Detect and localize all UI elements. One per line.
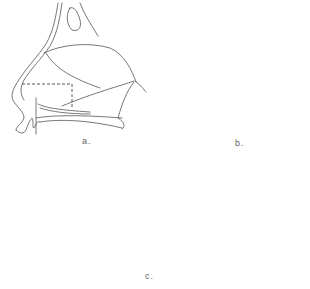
- nasal-anatomy-figure: [0, 0, 310, 289]
- panel-a-tip: [16, 118, 40, 133]
- panel-a-upper-lateral-cartilage: [44, 45, 136, 82]
- panel-a-medial-crus-2: [40, 108, 90, 114]
- panel-a-excision-dashed-outline: [22, 84, 72, 108]
- panel-a-drawing: [12, 3, 146, 134]
- panel-a-alar-rim: [118, 82, 134, 129]
- panel-a-ulc-diagonal: [46, 53, 100, 88]
- panel-a-base: [40, 120, 122, 128]
- panel-b-label: b.: [235, 138, 245, 148]
- panel-a-nostril-sill: [36, 116, 122, 118]
- panel-a-forehead-line: [80, 3, 98, 36]
- panel-a-nasal-bone-outline: [67, 8, 80, 31]
- panel-a-dorsum-inner: [21, 3, 62, 100]
- panel-c-label: c.: [145, 271, 154, 281]
- panel-a-label: a.: [82, 136, 92, 146]
- panel-a-alar-lobule: [136, 82, 146, 92]
